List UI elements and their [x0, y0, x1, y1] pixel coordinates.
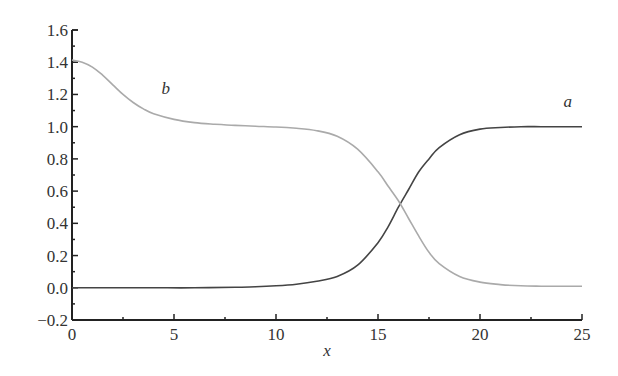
series-a-label: a	[563, 92, 572, 111]
x-tick-label: 0	[68, 325, 77, 344]
line-chart: −0.20.00.20.40.60.81.01.21.41.6 05101520…	[0, 0, 618, 376]
x-tick-label: 15	[370, 325, 387, 344]
series-b-line	[72, 60, 582, 286]
y-tick-label: 0.0	[47, 279, 68, 298]
series-b-label: b	[162, 79, 171, 98]
axes	[72, 30, 582, 320]
y-tick-label: 1.2	[47, 85, 68, 104]
x-axis-label: x	[322, 341, 331, 360]
y-tick-label: −0.2	[37, 311, 68, 330]
y-tick-label: 0.4	[47, 214, 69, 233]
curve-labels: ab	[162, 79, 572, 111]
y-tick-label: 1.6	[47, 21, 68, 40]
y-tick-label: 0.2	[47, 247, 68, 266]
data-series	[72, 60, 582, 288]
x-tick-label: 10	[268, 325, 285, 344]
x-tick-label: 25	[574, 325, 591, 344]
y-tick-label: 1.4	[47, 53, 69, 72]
y-tick-label: 0.6	[47, 182, 68, 201]
y-tick-label: 1.0	[47, 118, 68, 137]
y-tick-label: 0.8	[47, 150, 68, 169]
x-tick-label: 20	[472, 325, 489, 344]
x-tick-label: 5	[170, 325, 179, 344]
series-a-line	[72, 127, 582, 288]
x-axis-ticks: 0510152025	[68, 314, 591, 344]
